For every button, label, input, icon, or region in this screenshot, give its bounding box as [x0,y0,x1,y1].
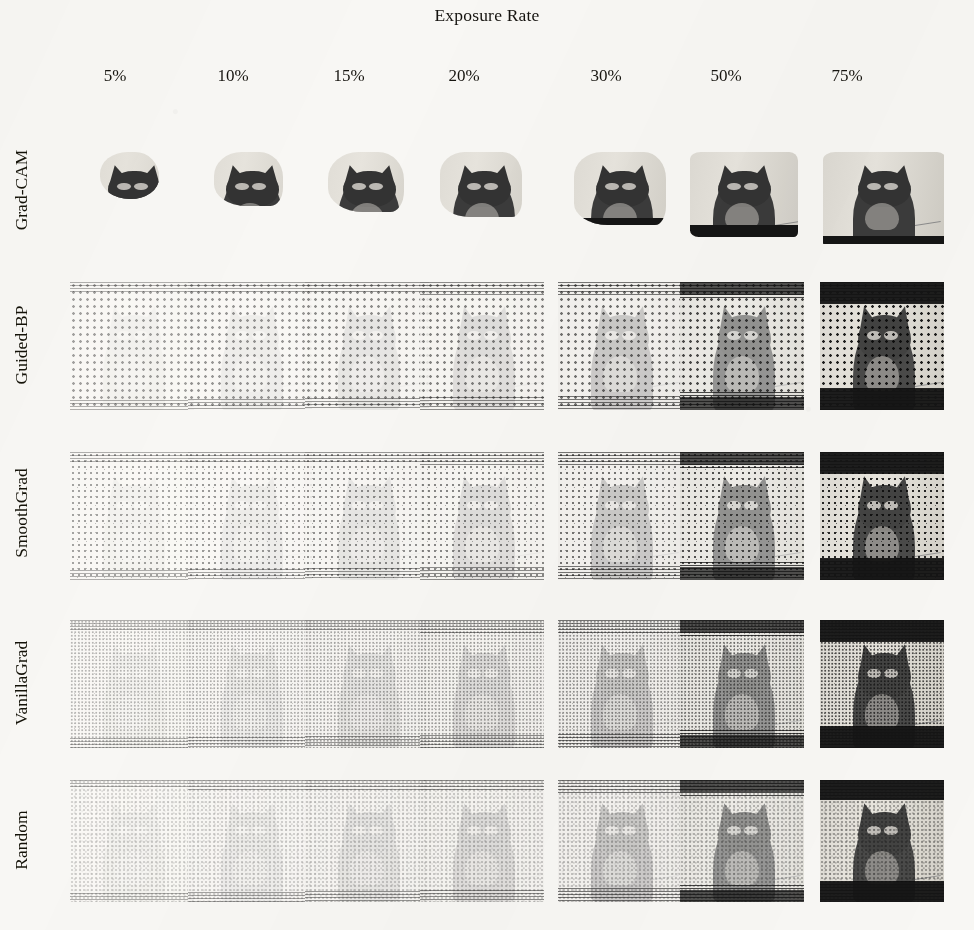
unexposed-scrim [558,780,682,902]
grid-cell-guided-bp-30pct [558,282,682,410]
exposure-band-bottom [420,567,544,580]
exposure-band-bottom [70,738,194,748]
saliency-image [680,282,804,410]
exposure-band-bottom [70,570,194,580]
grid-cell-guided-bp-20pct [420,282,544,410]
exposure-band-top [305,282,429,294]
cat-eye-left [867,183,881,190]
exposure-band-solid-bottom [820,559,944,580]
unexposed-scrim [305,452,429,580]
grid-cell-grad-cam-10pct [188,146,312,244]
cat-photo [328,152,404,212]
exposure-band-top [558,452,682,466]
exposure-band-solid-top [680,620,804,633]
saliency-image [820,282,944,410]
grid-cell-smoothgrad-75pct [820,452,944,580]
exposure-band-bottom [558,566,682,580]
grid-cell-smoothgrad-20pct [420,452,544,580]
grid-cell-grad-cam-75pct [820,146,944,244]
saliency-image [188,780,312,902]
cat-chest [865,203,900,230]
grid-cell-random-30pct [558,780,682,902]
grid-cell-random-50pct [680,780,804,902]
grid-cell-smoothgrad-10pct [188,452,312,580]
exposure-band-solid-bottom [820,389,944,410]
grid-cell-grad-cam-50pct [680,146,804,244]
cat-eye-left [467,183,481,190]
exposure-band-top [420,452,544,465]
cat-head [458,171,510,206]
cat-head [343,171,395,206]
saliency-image [558,452,682,580]
cat-head [858,171,910,206]
saliency-image [305,780,429,902]
exposure-band-solid-top [820,452,944,473]
unexposed-scrim [558,282,682,410]
exposure-band-bottom [70,893,194,902]
grid-cell-grad-cam-20pct [420,146,544,244]
exposure-band-bottom [420,890,544,902]
saliency-image [305,620,429,748]
saliency-image [558,620,682,748]
grid-cell-random-10pct [188,780,312,902]
saliency-image [420,282,544,410]
exposure-band-top [420,780,544,792]
exposure-band-top [70,452,194,462]
saliency-image [70,282,194,410]
unexposed-scrim [70,452,194,580]
cat-head [226,171,278,206]
exposure-band-bottom [558,396,682,410]
saliency-image [558,282,682,410]
unexposed-scrim [680,620,804,748]
unexposed-scrim [420,620,544,748]
exposure-band-top [420,282,544,295]
exposure-band-top [70,780,194,789]
exposure-band-bottom [558,734,682,748]
exposure-band-top [70,620,194,630]
exposure-band-solid-bottom [680,890,804,902]
saliency-image [680,452,804,580]
grid-cell-grad-cam-15pct [305,146,429,244]
grid-cell-random-20pct [420,780,544,902]
cat-photo [440,152,522,217]
exposure-band-top [188,780,312,790]
exposure-band-solid-top [680,780,804,792]
unexposed-scrim [680,780,804,902]
grid-cell-random-75pct [820,780,944,902]
grid-cell-smoothgrad-30pct [558,452,682,580]
exposure-band-top [188,620,312,631]
gradcam-saliency-region [214,152,283,206]
grid-cell-vanillagrad-75pct [820,620,944,748]
cat-photo [214,152,283,206]
exposure-band-solid-top [820,780,944,800]
saliency-image [70,620,194,748]
unexposed-scrim [70,780,194,902]
unexposed-scrim [558,452,682,580]
cat-eye-left [117,183,131,190]
unexposed-scrim [188,282,312,410]
grid-cell-smoothgrad-15pct [305,452,429,580]
saliency-image [305,452,429,580]
exposure-band-solid-top [820,282,944,303]
exposure-band-bottom [574,218,666,225]
grid-cell-grad-cam-5pct [70,146,194,244]
saliency-image [188,282,312,410]
unexposed-scrim [70,282,194,410]
exposure-band-bottom [558,888,682,902]
saliency-image [820,780,944,902]
gradcam-saliency-region [100,152,160,199]
grid-cell-vanillagrad-15pct [305,620,429,748]
saliency-image [558,780,682,902]
saliency-image [680,620,804,748]
gradcam-saliency-region [328,152,404,212]
exposure-band-top [188,452,312,463]
exposure-band-top [558,780,682,794]
saliency-image [70,780,194,902]
grid-cell-guided-bp-5pct [70,282,194,410]
cat-photo [100,152,160,199]
grid-cell-vanillagrad-20pct [420,620,544,748]
exposure-band-solid-bottom [680,735,804,748]
gradcam-saliency-region [823,152,944,244]
unexposed-scrim [305,620,429,748]
exposure-band-bottom [305,891,429,902]
